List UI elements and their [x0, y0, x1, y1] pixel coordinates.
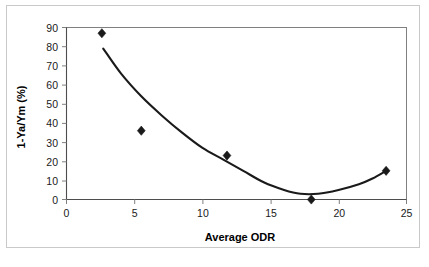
x-tick-label: 20 [333, 207, 345, 219]
data-point-marker [382, 166, 390, 175]
y-tick-label: 90 [46, 22, 58, 34]
data-point-markers [98, 29, 390, 204]
plot-area-border [67, 28, 407, 200]
x-tick-label: 5 [132, 207, 138, 219]
y-tick-label: 50 [46, 98, 58, 110]
y-tick-label: 70 [46, 60, 58, 72]
data-point-marker [223, 151, 231, 160]
x-tick-marks [67, 200, 407, 205]
chart-figure: 90 80 70 60 50 40 30 20 10 0 0 5 10 15 2… [0, 0, 429, 267]
x-tick-label: 0 [64, 207, 70, 219]
x-tick-label: 10 [197, 207, 209, 219]
y-axis-title: 1-Ya/Ym (%) [15, 85, 27, 148]
y-tick-label: 40 [46, 117, 58, 129]
data-point-marker [98, 29, 106, 38]
data-point-marker [307, 195, 315, 204]
y-tick-label: 10 [46, 175, 58, 187]
trend-curve-main [103, 49, 386, 195]
x-tick-label: 25 [401, 207, 413, 219]
y-tick-label: 20 [46, 156, 58, 168]
y-tick-label: 30 [46, 137, 58, 149]
y-tick-labels: 90 80 70 60 50 40 30 20 10 0 [46, 22, 58, 206]
x-tick-labels: 0 5 10 15 20 25 [64, 207, 413, 219]
x-axis-title: Average ODR [205, 231, 276, 243]
data-point-marker [137, 126, 145, 135]
scatter-plot: 90 80 70 60 50 40 30 20 10 0 0 5 10 15 2… [0, 0, 429, 267]
y-tick-label: 0 [52, 194, 58, 206]
y-tick-label: 60 [46, 79, 58, 91]
y-tick-label: 80 [46, 41, 58, 53]
x-tick-label: 15 [265, 207, 277, 219]
y-tick-marks [62, 28, 67, 200]
